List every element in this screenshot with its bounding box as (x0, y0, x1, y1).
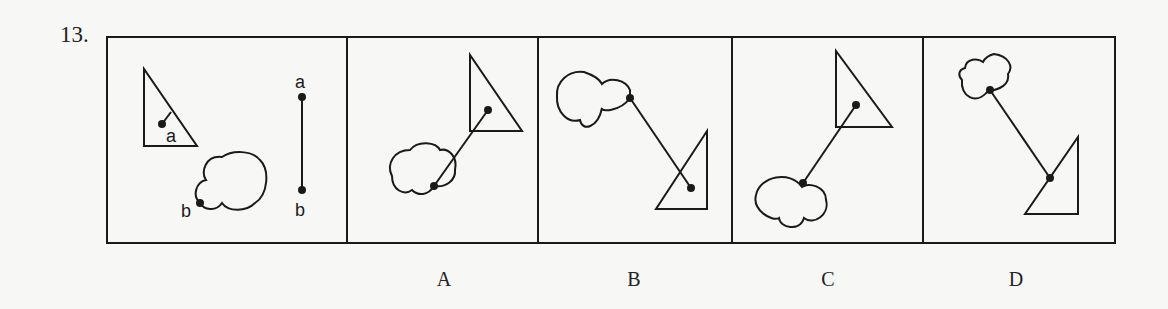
label-triangle-a: a (166, 126, 177, 146)
cloud-shape (196, 152, 267, 210)
triangle-point (485, 107, 491, 113)
puzzle-figure: a b a b (0, 0, 1168, 309)
connecting-segment (434, 110, 488, 186)
option-a-panel[interactable] (390, 55, 522, 194)
option-d-panel[interactable] (959, 54, 1078, 214)
cloud-shape (755, 177, 826, 227)
cloud-shape (557, 72, 630, 127)
cloud-shape (959, 54, 1010, 98)
connecting-segment (990, 90, 1050, 178)
triangle-shape (656, 131, 707, 209)
segment-point-a (299, 94, 305, 100)
label-segment-a: a (295, 72, 306, 92)
triangle-point (1047, 175, 1053, 181)
connecting-segment (630, 98, 691, 188)
cloud-point (431, 183, 437, 189)
triangle-point (853, 102, 859, 108)
option-label-a[interactable]: A (437, 268, 451, 291)
connecting-segment (803, 105, 856, 183)
triangle-shape (836, 51, 892, 127)
option-b-panel[interactable] (557, 72, 707, 209)
point-b-dot (197, 200, 203, 206)
point-a-dot (159, 121, 165, 127)
cloud-point (800, 180, 806, 186)
option-c-panel[interactable] (755, 51, 892, 227)
option-label-b[interactable]: B (627, 268, 640, 291)
label-segment-b: b (295, 200, 305, 220)
label-cloud-b: b (181, 201, 191, 221)
triangle-shape (470, 55, 522, 131)
segment-point-b (299, 187, 305, 193)
cloud-point (987, 87, 993, 93)
option-label-d[interactable]: D (1009, 268, 1023, 291)
triangle-point (688, 185, 694, 191)
cloud-point (627, 95, 633, 101)
option-label-c[interactable]: C (821, 268, 834, 291)
